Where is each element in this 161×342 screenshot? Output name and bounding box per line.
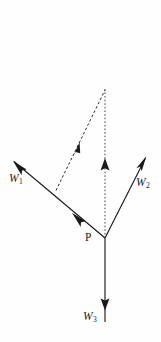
label-w3: W3 — [83, 311, 96, 323]
figure-canvas: W1 W2 W3 P — [0, 0, 161, 342]
dashed-resultant-group — [56, 90, 105, 191]
label-w2: W2 — [136, 177, 149, 189]
label-w2-letter: W — [136, 176, 146, 188]
dashed-mid-arrowhead — [73, 142, 80, 156]
label-w1-letter: W — [9, 172, 19, 184]
w2-vector-group — [105, 156, 146, 238]
w2-tip-arrowhead — [136, 156, 146, 171]
label-point-p: P — [85, 232, 91, 244]
w2-vector-line — [105, 158, 145, 238]
w1-vector-group — [13, 161, 105, 238]
label-w1: W1 — [9, 173, 22, 185]
w1-vector-line — [14, 162, 105, 239]
label-w1-subscript: 1 — [19, 177, 23, 186]
w3-vector-group — [101, 238, 110, 322]
label-w3-letter: W — [83, 310, 93, 322]
vector-diagram-svg — [0, 0, 161, 342]
dashed-resultant-line — [56, 90, 105, 191]
dotted-vertical-group — [101, 89, 110, 238]
label-w2-subscript: 2 — [146, 181, 150, 190]
label-w3-subscript: 3 — [93, 315, 97, 324]
